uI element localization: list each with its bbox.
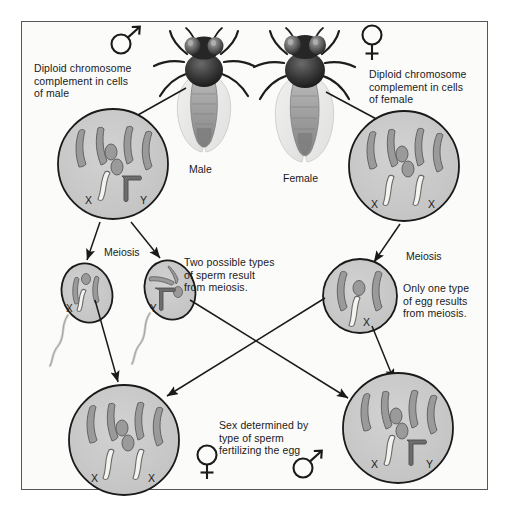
sperm-caption: Two possible types of sperm result from …: [184, 256, 302, 294]
egg-caption: Only one type of egg results from meiosi…: [403, 282, 503, 320]
male-cell-y-label: Y: [140, 194, 147, 206]
male-diploid-cell: X Y: [58, 109, 168, 219]
meiosis-label-male: Meiosis: [104, 246, 140, 258]
offspring-male-cell: X Y: [343, 373, 453, 483]
female-cell-x2-label: X: [428, 198, 435, 210]
egg-cell: X: [323, 259, 397, 333]
arrow-spermY-to-male-offspring: [190, 300, 348, 398]
female-symbol-offspring: [198, 446, 217, 480]
arrow-egg-to-female-offspring: [167, 298, 325, 396]
female-symbol: [363, 26, 382, 61]
female-diploid-cell: X X: [349, 111, 459, 221]
meiosis-arrow-male-left: [87, 222, 100, 260]
offspring-female-x1-label: X: [91, 472, 98, 484]
meiosis-arrow-female: [374, 224, 400, 262]
sex-determination-diagram: X Y X X: [0, 0, 510, 515]
offspring-female-x2-label: X: [148, 472, 155, 484]
female-cell-x1-label: X: [371, 198, 378, 210]
offspring-male-y-label: Y: [426, 458, 433, 470]
male-cell-caption: Diploid chromosome complement in cells o…: [34, 62, 152, 100]
female-fly-illustration: [254, 28, 355, 162]
fertilization-caption: Sex determined by type of sperm fertiliz…: [219, 419, 341, 457]
male-cell-x-label: X: [85, 194, 92, 206]
male-fly-label: Male: [189, 163, 212, 175]
arrow-egg-to-male-offspring: [372, 326, 394, 380]
meiosis-label-female: Meiosis: [406, 250, 442, 262]
male-symbol: [112, 27, 140, 54]
female-cell-caption: Diploid chromosome complement in cells o…: [369, 68, 487, 106]
sperm-x-label: X: [66, 303, 73, 314]
egg-x-label: X: [363, 316, 370, 328]
male-fly-illustration: [154, 28, 254, 152]
female-fly-label: Female: [283, 172, 318, 184]
offspring-female-cell: X X: [69, 385, 179, 495]
offspring-male-x-label: X: [371, 458, 378, 470]
